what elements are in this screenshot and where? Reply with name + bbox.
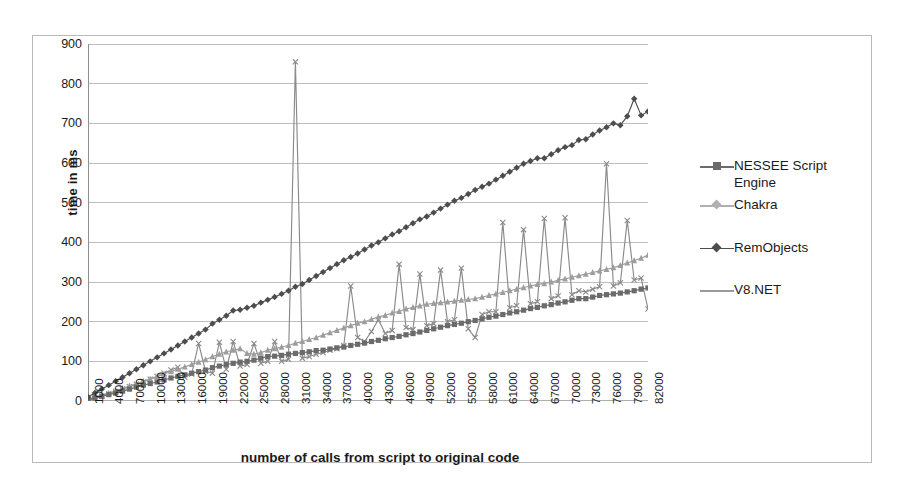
data-point-marker — [459, 321, 464, 326]
data-point-marker — [514, 309, 519, 314]
data-point-marker — [244, 350, 250, 356]
data-point-marker — [486, 180, 492, 186]
legend-item-nessee-script[interactable]: NESSEE Script Engine — [700, 158, 870, 191]
data-point-marker — [355, 342, 360, 347]
y-axis-tick-labels: 0100200300400500600700800900 — [38, 0, 82, 493]
data-point-marker — [500, 312, 505, 317]
data-point-marker — [458, 195, 464, 201]
data-point-marker — [314, 348, 319, 353]
data-point-marker — [237, 307, 243, 313]
x-tick-label: 52000 — [445, 372, 457, 404]
data-point-marker — [127, 387, 132, 392]
data-point-marker — [368, 242, 374, 248]
data-point-marker — [175, 342, 181, 348]
data-point-marker — [189, 371, 194, 376]
x-tick-label: 46000 — [404, 372, 416, 404]
data-point-marker — [195, 330, 201, 336]
x-tick-label: 25000 — [258, 372, 270, 404]
x-tick-label: 55000 — [466, 372, 478, 404]
y-tick-label: 200 — [38, 315, 82, 329]
data-point-marker — [528, 306, 533, 311]
legend-item-chakra[interactable]: Chakra — [700, 197, 870, 214]
data-point-marker — [126, 370, 132, 376]
data-point-marker — [244, 359, 249, 364]
x-tick-label: 19000 — [217, 372, 229, 404]
data-point-marker — [542, 303, 547, 308]
data-point-marker — [424, 213, 430, 219]
data-point-marker — [383, 336, 388, 341]
legend-item-remobjects[interactable]: RemObjects — [700, 240, 870, 257]
data-point-marker — [251, 303, 257, 309]
data-point-marker — [611, 291, 616, 296]
y-tick-label: 100 — [38, 354, 82, 368]
x-tick-label: 13000 — [175, 372, 187, 404]
data-point-marker — [265, 354, 270, 359]
data-point-marker — [465, 191, 471, 197]
legend-label: RemObjects — [734, 240, 808, 257]
data-point-marker — [396, 228, 402, 234]
data-point-marker — [513, 165, 519, 171]
data-point-marker — [507, 310, 512, 315]
data-point-marker — [618, 291, 623, 296]
x-tick-label: 40000 — [362, 372, 374, 404]
data-point-marker — [182, 338, 188, 344]
data-point-marker — [583, 136, 589, 142]
data-point-marker — [140, 362, 146, 368]
data-point-marker — [541, 155, 547, 161]
x-axis-tick-labels: 1000400070001000013000160001900022000250… — [88, 404, 648, 454]
series-remobjects — [88, 96, 648, 401]
data-point-marker — [133, 366, 139, 372]
data-point-marker — [534, 155, 540, 161]
data-point-marker — [369, 329, 374, 334]
data-point-marker — [258, 356, 263, 361]
x-tick-label: 34000 — [321, 372, 333, 404]
data-point-marker — [417, 216, 423, 222]
data-point-marker — [493, 314, 498, 319]
data-point-marker — [348, 343, 353, 348]
data-point-marker — [535, 305, 540, 310]
data-point-marker — [479, 316, 484, 321]
legend-spacer — [700, 220, 870, 240]
y-tick-label: 300 — [38, 275, 82, 289]
data-point-marker — [334, 261, 340, 267]
data-point-marker — [438, 325, 443, 330]
y-tick-label: 700 — [38, 116, 82, 130]
data-point-marker — [417, 329, 422, 334]
data-point-marker — [313, 273, 319, 279]
legend-item-v8-net[interactable]: V8.NET — [700, 282, 870, 299]
data-point-marker — [583, 296, 588, 301]
data-point-marker — [472, 187, 478, 193]
data-point-marker — [369, 339, 374, 344]
data-point-marker — [341, 344, 346, 349]
data-point-marker — [645, 108, 648, 114]
data-point-marker — [307, 349, 312, 354]
data-point-marker — [348, 254, 354, 260]
chart-svg — [88, 44, 648, 401]
data-point-marker — [452, 322, 457, 327]
data-point-marker — [590, 294, 595, 299]
data-point-marker — [493, 176, 499, 182]
data-point-marker — [632, 288, 637, 293]
x-tick-label: 7000 — [134, 378, 146, 404]
data-point-marker — [520, 161, 526, 167]
legend-spacer — [700, 262, 870, 282]
data-point-marker — [237, 360, 242, 365]
x-tick-label: 4000 — [113, 378, 125, 404]
data-point-marker — [300, 350, 305, 355]
x-tick-label: 58000 — [487, 372, 499, 404]
data-point-marker — [147, 358, 153, 364]
x-tick-label: 31000 — [300, 372, 312, 404]
data-point-marker — [473, 318, 478, 323]
data-point-marker — [397, 334, 402, 339]
data-point-marker — [161, 350, 167, 356]
data-point-marker — [403, 332, 408, 337]
legend-label: Chakra — [734, 197, 778, 214]
y-tick-label: 800 — [38, 77, 82, 91]
data-point-marker — [327, 265, 333, 271]
data-point-marker — [638, 112, 644, 118]
data-point-marker — [106, 382, 112, 388]
data-point-marker — [638, 287, 643, 292]
data-point-marker — [555, 147, 561, 153]
data-point-marker — [106, 392, 111, 397]
data-point-marker — [556, 300, 561, 305]
